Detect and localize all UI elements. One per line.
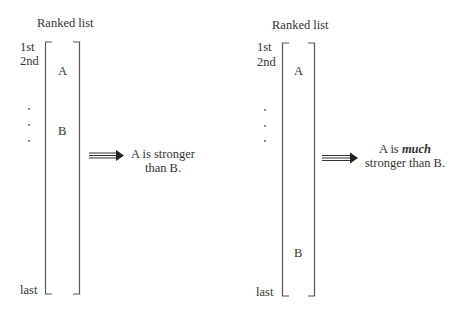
- right-conclusion-emphasis: much: [402, 142, 431, 156]
- left-ellipsis-dot: [28, 124, 30, 126]
- right-ellipsis-dot: [264, 140, 266, 142]
- left-implication-arrow-icon: [89, 153, 118, 158]
- left-ellipsis-dot: [28, 108, 30, 110]
- left-conclusion-line1: A is stronger: [128, 147, 198, 161]
- left-ellipsis-dot: [28, 140, 30, 142]
- right-conclusion: A is much stronger than B.: [362, 142, 448, 170]
- left-conclusion-line2: than B.: [128, 161, 198, 175]
- left-panel-title: Ranked list: [37, 16, 94, 30]
- right-panel-title: Ranked list: [272, 18, 329, 32]
- left-conclusion: A is stronger than B.: [128, 147, 198, 175]
- left-item-b: B: [58, 124, 66, 138]
- right-ellipsis-dot: [264, 125, 266, 127]
- left-rank-last-label: last: [20, 283, 37, 297]
- right-conclusion-line1: A is much: [362, 142, 448, 156]
- left-rank-first-label: 1st: [20, 40, 35, 54]
- right-implication-arrow-icon: [322, 156, 352, 161]
- right-rank-last-label: last: [256, 285, 273, 299]
- left-item-a: A: [58, 64, 67, 78]
- right-conclusion-prefix: A is: [379, 142, 402, 156]
- right-conclusion-line2: stronger than B.: [362, 156, 448, 170]
- left-rank-second-label: 2nd: [20, 54, 39, 68]
- right-rank-second-label: 2nd: [257, 55, 276, 69]
- right-item-a: A: [294, 64, 303, 78]
- right-rank-first-label: 1st: [257, 40, 272, 54]
- left-ranked-list-bracket: [46, 42, 80, 294]
- right-ellipsis-dot: [264, 109, 266, 111]
- right-item-b: B: [294, 246, 302, 260]
